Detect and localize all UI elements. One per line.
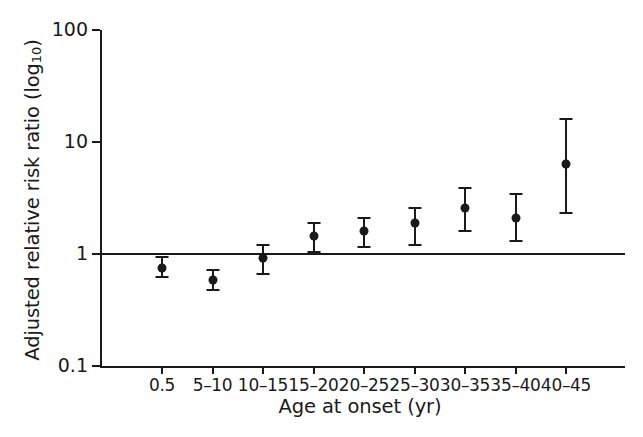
data-point-3 bbox=[309, 231, 318, 240]
error-cap-upper-0 bbox=[156, 256, 169, 258]
x-tick-4 bbox=[363, 366, 365, 374]
y-tick-label-2: 1 bbox=[76, 244, 88, 263]
data-point-5 bbox=[410, 218, 419, 227]
error-cap-upper-7 bbox=[509, 193, 522, 195]
x-tick-5 bbox=[414, 366, 416, 374]
error-cap-lower-1 bbox=[206, 289, 219, 291]
x-tick-label-3: 15–20 bbox=[288, 377, 338, 394]
reference-line bbox=[100, 253, 625, 255]
y-tick-label-3: 0.1 bbox=[58, 356, 88, 375]
x-tick-label-0: 0.5 bbox=[149, 377, 175, 394]
data-point-2 bbox=[259, 253, 268, 262]
x-tick-6 bbox=[464, 366, 466, 374]
error-cap-lower-0 bbox=[156, 276, 169, 278]
x-tick-3 bbox=[313, 366, 315, 374]
error-cap-upper-1 bbox=[206, 269, 219, 271]
x-tick-label-1: 5–10 bbox=[193, 377, 233, 394]
x-tick-label-5: 25–30 bbox=[389, 377, 439, 394]
x-tick-8 bbox=[565, 366, 567, 374]
error-cap-upper-8 bbox=[560, 118, 573, 120]
x-tick-1 bbox=[212, 366, 214, 374]
x-tick-7 bbox=[515, 366, 517, 374]
y-tick-2 bbox=[92, 253, 100, 255]
x-tick-label-4: 20–25 bbox=[339, 377, 389, 394]
x-tick-label-2: 10–15 bbox=[238, 377, 288, 394]
y-tick-3 bbox=[92, 365, 100, 367]
error-cap-lower-3 bbox=[307, 251, 320, 253]
y-tick-label-0: 100 bbox=[52, 20, 88, 39]
error-cap-lower-6 bbox=[459, 230, 472, 232]
x-tick-0 bbox=[161, 366, 163, 374]
y-axis-title-main: Adjusted relative risk ratio (log bbox=[21, 63, 44, 361]
error-cap-lower-8 bbox=[560, 212, 573, 214]
data-point-8 bbox=[562, 160, 571, 169]
error-cap-upper-5 bbox=[408, 207, 421, 209]
data-point-7 bbox=[511, 213, 520, 222]
error-cap-lower-5 bbox=[408, 244, 421, 246]
error-cap-lower-7 bbox=[509, 240, 522, 242]
data-point-4 bbox=[360, 227, 369, 236]
error-cap-upper-2 bbox=[257, 244, 270, 246]
data-point-6 bbox=[461, 203, 470, 212]
y-tick-1 bbox=[92, 141, 100, 143]
figure-container: Adjusted relative risk ratio (log10) 0.5… bbox=[0, 0, 643, 437]
y-axis-title: Adjusted relative risk ratio (log10) bbox=[16, 0, 50, 400]
error-cap-lower-4 bbox=[358, 246, 371, 248]
x-tick-label-8: 40–45 bbox=[541, 377, 591, 394]
y-tick-0 bbox=[92, 29, 100, 31]
error-cap-upper-3 bbox=[307, 222, 320, 224]
y-tick-label-1: 10 bbox=[64, 132, 88, 151]
x-axis-title: Age at onset (yr) bbox=[100, 395, 620, 418]
y-axis-title-subscript: 10 bbox=[29, 47, 44, 63]
error-cap-upper-6 bbox=[459, 187, 472, 189]
x-tick-2 bbox=[262, 366, 264, 374]
error-cap-lower-2 bbox=[257, 273, 270, 275]
error-cap-upper-4 bbox=[358, 217, 371, 219]
y-axis-title-close: ) bbox=[21, 39, 44, 47]
y-axis-line bbox=[100, 30, 102, 368]
data-point-0 bbox=[158, 263, 167, 272]
data-point-1 bbox=[208, 275, 217, 284]
x-tick-label-6: 30–35 bbox=[440, 377, 490, 394]
plot-area: 0.55–1010–1515–2020–2525–3030–3535–4040–… bbox=[100, 30, 625, 368]
x-tick-label-7: 35–40 bbox=[490, 377, 540, 394]
